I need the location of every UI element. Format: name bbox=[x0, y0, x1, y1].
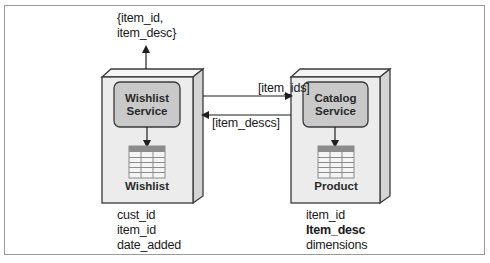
wishlist-field-item-id: item_id bbox=[117, 223, 156, 238]
wishlist-database-icon bbox=[129, 146, 165, 178]
wishlist-service-label: Wishlist Service bbox=[114, 92, 180, 118]
product-database-label: Product bbox=[301, 180, 371, 192]
diagram-canvas bbox=[0, 0, 490, 263]
wishlist-service-label-line2: Service bbox=[114, 105, 180, 118]
product-database-icon bbox=[318, 146, 354, 178]
catalog-service-label-line1: Catalog bbox=[303, 92, 368, 105]
product-field-item-desc: Item_desc bbox=[306, 223, 365, 238]
wishlist-service-label-line1: Wishlist bbox=[114, 92, 180, 105]
output-label-line2: item_desc} bbox=[117, 26, 176, 41]
wishlist-field-cust-id: cust_id bbox=[117, 208, 155, 223]
product-field-dimensions: dimensions bbox=[306, 238, 367, 253]
catalog-service-label: Catalog Service bbox=[303, 92, 368, 118]
product-field-item-id: item_id bbox=[306, 208, 345, 223]
item-descs-label: [item_descs] bbox=[212, 116, 280, 131]
wishlist-field-date-added: date_added bbox=[117, 238, 181, 253]
output-label-line1: {item_id, bbox=[117, 11, 163, 26]
catalog-service-label-line2: Service bbox=[303, 105, 368, 118]
item-ids-label: [item_ids] bbox=[258, 81, 310, 96]
wishlist-database-label: Wishlist bbox=[112, 180, 182, 192]
